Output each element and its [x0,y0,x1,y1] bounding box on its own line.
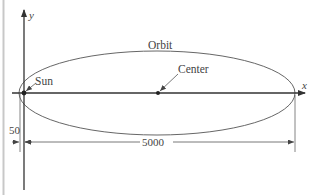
center-dot [156,91,160,95]
orbit-label: Orbit [148,39,173,51]
orbit-diagram: x y Orbit Sun Center 5000 50 [0,0,314,195]
center-label: Center [178,63,209,75]
y-axis-label: y [28,9,34,21]
center-leader [160,74,178,91]
sun-dot [22,91,27,96]
major-axis-dimension-label: 5000 [142,136,165,148]
x-axis-label: x [301,79,307,91]
sun-label: Sun [35,75,53,87]
sun-offset-dimension-label: 50 [9,124,21,136]
